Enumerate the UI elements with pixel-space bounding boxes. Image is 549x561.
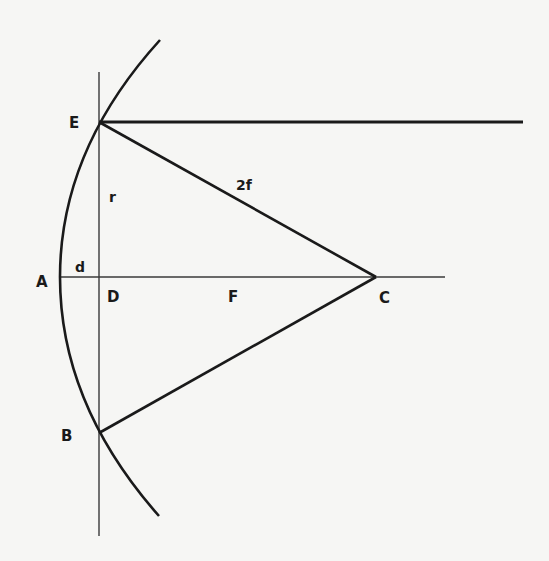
label-r: r <box>109 189 116 205</box>
mirror-arc <box>60 40 160 516</box>
label-2f: 2f <box>236 177 253 193</box>
label-a: A <box>36 273 48 291</box>
label-e: E <box>69 114 79 132</box>
label-c: C <box>379 289 390 307</box>
label-d-point: D <box>107 288 119 306</box>
diagram-svg: E r 2f d A D F C B <box>0 0 549 561</box>
radius-ec <box>99 122 376 277</box>
mirror-geometry-diagram: E r 2f d A D F C B <box>0 0 549 561</box>
label-d-small: d <box>75 259 85 275</box>
label-b: B <box>61 427 72 445</box>
label-f: F <box>228 288 238 306</box>
